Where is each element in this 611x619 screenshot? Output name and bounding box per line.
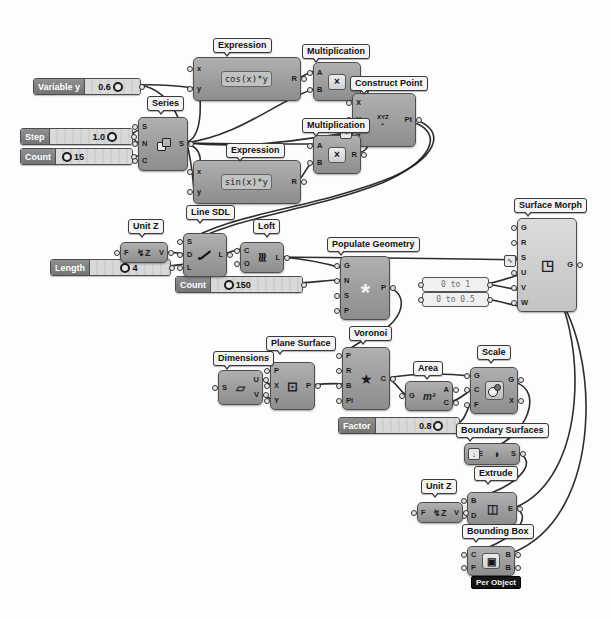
slider-knob[interactable] [113, 82, 123, 92]
port-l-out[interactable]: L [217, 251, 224, 259]
port-s[interactable]: S [510, 450, 517, 458]
port-d[interactable]: D [470, 512, 477, 520]
panel-range-0-05[interactable]: 0 to 0.5 [422, 292, 489, 307]
slider-track[interactable]: 0.6 [85, 79, 140, 94]
node-multiplication-2[interactable]: A B × R [313, 135, 361, 174]
node-expression-sin[interactable]: x y sin(x)*y R [193, 160, 301, 204]
port-p[interactable]: P [345, 352, 354, 360]
port-p-out[interactable]: P [380, 284, 387, 292]
port-s[interactable]: S [343, 292, 351, 300]
port-c[interactable]: C [470, 551, 477, 559]
port-a[interactable]: A [443, 386, 450, 394]
port-v[interactable]: V [520, 284, 529, 292]
node-dimensions[interactable]: S ▱ U V [218, 370, 263, 405]
port-g[interactable]: G [520, 224, 529, 232]
node-series[interactable]: S N C S [138, 117, 188, 171]
node-unit-z-1[interactable]: F ↯Z V [120, 242, 168, 263]
port-b2[interactable]: B [505, 564, 512, 572]
graph-mapper-icon[interactable]: ∿ [504, 255, 516, 267]
port-x[interactable]: x [196, 65, 202, 73]
node-surface-morph[interactable]: G R S U V W ◳ G [517, 218, 577, 312]
per-object-tag[interactable]: Per Object [471, 576, 521, 589]
port-v[interactable]: V [453, 509, 460, 517]
port-r[interactable]: R [351, 151, 358, 159]
port-x[interactable]: X [355, 99, 362, 107]
node-scale[interactable]: G C F G X [470, 367, 518, 414]
port-l[interactable]: L [186, 264, 193, 272]
port-s[interactable]: S [186, 238, 193, 246]
port-v[interactable]: V [158, 249, 165, 257]
port-u[interactable]: U [253, 376, 260, 384]
slider-knob[interactable] [120, 263, 130, 273]
port-n[interactable]: N [343, 277, 351, 285]
node-voronoi[interactable]: P R B Pl ★ C [342, 347, 390, 410]
port-pt[interactable]: Pt [404, 116, 414, 124]
port-f[interactable]: F [473, 401, 481, 409]
port-x[interactable]: x [196, 168, 202, 176]
panel-range-0-1[interactable]: 0 to 1 [422, 277, 489, 292]
port-g[interactable]: G [473, 372, 481, 380]
slider-count[interactable]: Count 15 [20, 148, 133, 165]
node-bounding-box[interactable]: C P ▣ B B [467, 546, 515, 576]
port-b[interactable]: B [316, 159, 323, 167]
slider-knob[interactable] [224, 280, 234, 290]
slider-knob[interactable] [107, 132, 117, 142]
node-unit-z-2[interactable]: F ↯Z V [417, 502, 463, 523]
port-g[interactable]: G [408, 392, 416, 400]
port-s[interactable]: S [221, 384, 228, 392]
node-expression-cos[interactable]: x y cos(x)*y R [193, 57, 301, 101]
port-y[interactable]: y [196, 188, 202, 196]
port-g[interactable]: G [343, 262, 351, 270]
port-c[interactable]: C [243, 247, 251, 255]
slider-step[interactable]: Step 1.0 [20, 128, 133, 145]
port-e[interactable]: E [507, 505, 514, 513]
node-extrude[interactable]: B D ◫ E [467, 492, 517, 525]
slider-track[interactable]: 0.8 [376, 418, 459, 433]
port-g-out[interactable]: G [566, 261, 574, 269]
port-o[interactable]: O [243, 260, 251, 268]
port-s[interactable]: S [520, 254, 529, 262]
slider-track[interactable]: 15 [56, 149, 132, 164]
port-n[interactable]: N [141, 140, 148, 148]
port-pl[interactable]: Pl [345, 397, 354, 405]
port-p[interactable]: P [343, 307, 351, 315]
port-f[interactable]: F [420, 509, 427, 517]
slider-track[interactable]: 1.0 [50, 129, 132, 144]
port-y[interactable]: y [196, 85, 202, 93]
node-loft[interactable]: C O ≋ L [240, 242, 284, 273]
port-p-out[interactable]: P [305, 382, 312, 390]
port-y[interactable]: Y [273, 397, 280, 405]
slider-track[interactable]: 150 [211, 277, 302, 292]
slider-knob[interactable] [62, 152, 72, 162]
flatten-icon[interactable]: ↓ [468, 448, 480, 460]
node-line-sdl[interactable]: S D L L [183, 233, 227, 277]
port-p[interactable]: P [273, 367, 280, 375]
port-a[interactable]: A [316, 69, 323, 77]
port-d[interactable]: D [186, 251, 193, 259]
slider-variable-y[interactable]: Variable y 0.6 [33, 78, 141, 95]
port-x[interactable]: X [507, 397, 515, 405]
slider-knob[interactable] [433, 421, 443, 431]
port-c[interactable]: C [380, 375, 387, 383]
slider-count-150[interactable]: Count 150 [175, 276, 303, 293]
port-r[interactable]: R [291, 75, 298, 83]
port-c[interactable]: C [141, 157, 148, 165]
port-c[interactable]: C [443, 399, 450, 407]
port-v[interactable]: V [253, 391, 260, 399]
port-l[interactable]: L [274, 254, 281, 262]
port-r[interactable]: R [345, 367, 354, 375]
port-s[interactable]: S [141, 123, 148, 131]
slider-factor[interactable]: Factor 0.8 [338, 417, 460, 434]
port-c[interactable]: C [473, 386, 481, 394]
node-plane-surface[interactable]: P X Y ⊡ P [270, 362, 315, 410]
grasshopper-canvas[interactable]: Variable y 0.6 Step 1.0 Count 15 Length [0, 0, 611, 619]
port-f[interactable]: F [123, 249, 130, 257]
port-s-out[interactable]: S [178, 140, 185, 148]
port-a[interactable]: A [316, 142, 323, 150]
port-b1[interactable]: B [505, 551, 512, 559]
node-area[interactable]: G m² A C [405, 381, 453, 411]
port-b[interactable]: B [316, 86, 323, 94]
port-p[interactable]: P [470, 564, 477, 572]
port-r[interactable]: R [520, 239, 529, 247]
port-w[interactable]: W [520, 299, 529, 307]
